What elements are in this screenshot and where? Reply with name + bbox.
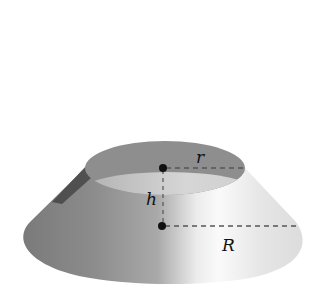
frustum-diagram: r h R — [0, 0, 322, 289]
label-r: r — [196, 147, 205, 167]
label-R: R — [221, 235, 235, 255]
top-center-dot — [159, 164, 167, 172]
frustum-figure: r h R — [0, 0, 322, 289]
label-h: h — [146, 189, 157, 209]
bottom-center-dot — [158, 222, 166, 230]
